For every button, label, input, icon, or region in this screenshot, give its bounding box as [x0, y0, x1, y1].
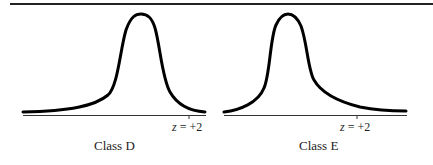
class-e-chart [224, 14, 407, 119]
class-d-curve [23, 14, 205, 112]
class-e-z-label: z = +2 [340, 120, 370, 135]
class-d-title: Class D [94, 138, 135, 154]
charts-svg [0, 0, 433, 165]
class-d-chart [23, 14, 206, 119]
class-e-curve [224, 14, 406, 112]
class-e-title: Class E [299, 138, 338, 154]
class-d-z-label: z = +2 [172, 120, 202, 135]
